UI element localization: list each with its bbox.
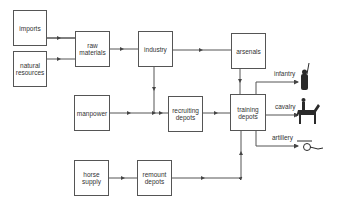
node-horse-supply: horse supply	[74, 160, 109, 196]
node-imports: imports	[13, 10, 47, 46]
artillery-icon	[297, 141, 323, 151]
node-natural-resources-label: natural resources	[14, 62, 46, 76]
node-raw-materials: raw materials	[75, 31, 110, 67]
node-training-depots-label: training depots	[231, 106, 265, 120]
infantry-icon	[301, 63, 309, 90]
node-recruiting-depots-label: recruiting depots	[169, 107, 202, 121]
node-imports-label: imports	[19, 25, 40, 32]
cavalry-icon	[296, 98, 320, 124]
node-raw-materials-label: raw materials	[76, 42, 109, 56]
node-remount-depots: remount depots	[137, 160, 172, 196]
node-arsenals-label: arsenals	[236, 48, 261, 55]
node-remount-depots-label: remount depots	[138, 171, 171, 185]
node-arsenals: arsenals	[231, 33, 266, 69]
node-industry-label: industry	[144, 46, 167, 53]
node-manpower: manpower	[74, 95, 110, 131]
node-recruiting-depots: recruiting depots	[168, 96, 203, 132]
output-artillery-label: artillery	[272, 134, 293, 141]
node-training-depots: training depots	[230, 94, 266, 131]
node-industry: industry	[138, 31, 173, 67]
node-horse-supply-label: horse supply	[75, 171, 108, 185]
output-cavalry-label: cavalry	[275, 103, 296, 110]
node-natural-resources: natural resources	[13, 51, 47, 87]
node-manpower-label: manpower	[77, 110, 107, 117]
output-infantry-label: infantry	[274, 70, 295, 77]
